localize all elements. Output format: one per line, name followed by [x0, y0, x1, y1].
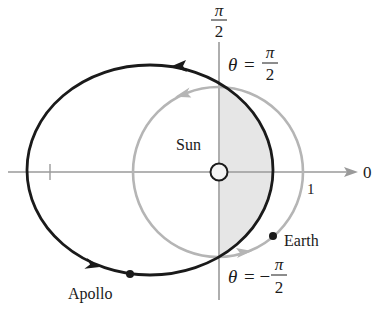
axis-label-top-denominator: 2 [215, 22, 224, 41]
earth-label: Earth [284, 232, 319, 249]
theta-bottom-symbol: θ [228, 266, 237, 287]
theta-bottom-numerator: π [275, 255, 284, 274]
apollo-orbit-arrow-top [172, 60, 187, 72]
theta-top-denominator: 2 [266, 65, 275, 84]
sun-label: Sun [176, 136, 201, 153]
polar-orbit-diagram: π 2 0 1 θ = π 2 θ = − π 2 Sun Earth Apol… [0, 0, 374, 321]
sun-marker [211, 164, 228, 181]
earth-orbit-arrow-bottom [236, 248, 252, 258]
theta-bottom-equals: = − [244, 266, 270, 287]
axis-label-top-numerator: π [215, 1, 224, 20]
apollo-label: Apollo [68, 285, 112, 303]
theta-bottom-denominator: 2 [275, 278, 284, 297]
polar-axis-label: 0 [363, 163, 372, 182]
theta-top-equals: = [244, 54, 255, 75]
theta-top-symbol: θ [228, 54, 237, 75]
earth-marker [269, 232, 277, 240]
unit-label: 1 [307, 181, 315, 197]
apollo-marker [126, 270, 134, 278]
theta-top-numerator: π [266, 43, 275, 62]
